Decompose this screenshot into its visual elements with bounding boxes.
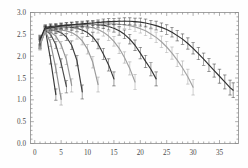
y-tick-label: 0.0 bbox=[17, 140, 26, 148]
x-tick-label: 25 bbox=[163, 149, 171, 157]
y-tick-label: 1.0 bbox=[17, 96, 26, 104]
y-tick-label: 1.5 bbox=[17, 75, 26, 83]
plot-frame bbox=[31, 13, 239, 144]
axis-ticks bbox=[31, 13, 239, 144]
y-tick-label: 3.0 bbox=[17, 9, 26, 17]
x-tick-label: 35 bbox=[216, 149, 224, 157]
x-tick-label: 30 bbox=[190, 149, 198, 157]
y-tick-label: 2.5 bbox=[17, 31, 26, 39]
y-tick-label: 2.0 bbox=[17, 53, 26, 61]
x-tick-label: 0 bbox=[33, 149, 37, 157]
plot-canvas: 0.00.51.01.52.02.53.0 05101520253035 bbox=[0, 0, 248, 168]
x-tick-label: 15 bbox=[110, 149, 118, 157]
data-series bbox=[38, 29, 73, 92]
x-tick-label: 20 bbox=[137, 149, 145, 157]
series-line bbox=[40, 24, 193, 87]
y-axis-tick-labels: 0.00.51.01.52.02.53.0 bbox=[17, 9, 26, 148]
error-bars bbox=[38, 29, 73, 92]
data-series-group bbox=[38, 18, 235, 105]
y-tick-label: 0.5 bbox=[17, 118, 26, 126]
x-axis-tick-labels: 05101520253035 bbox=[33, 149, 224, 157]
x-tick-label: 5 bbox=[59, 149, 63, 157]
x-tick-label: 10 bbox=[84, 149, 92, 157]
chart-figure: 0.00.51.01.52.02.53.0 05101520253035 bbox=[0, 0, 248, 168]
